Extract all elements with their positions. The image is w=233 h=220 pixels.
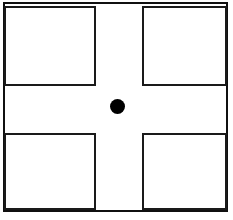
quadrant-top-right	[142, 6, 227, 86]
figure-root	[0, 0, 233, 220]
quadrant-bottom-left	[4, 133, 96, 210]
center-dot	[110, 99, 125, 114]
quadrant-top-left	[4, 6, 96, 86]
quadrant-bottom-right	[142, 133, 227, 210]
